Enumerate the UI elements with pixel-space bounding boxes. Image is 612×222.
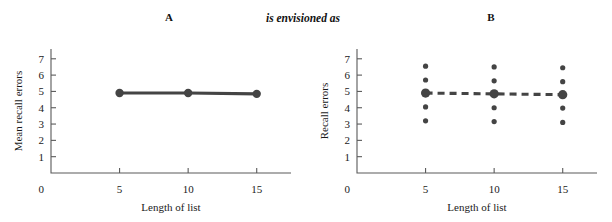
panel-a-ytick-label-7: 7 [39, 53, 45, 65]
panel-a-ytick-label-4: 4 [39, 102, 45, 114]
panel-a-ytick-label-6: 6 [39, 69, 45, 81]
panel-a-origin-label: 0 [39, 183, 45, 195]
panel-b-observation-point [423, 104, 428, 109]
panel-b-mean-point [490, 89, 499, 98]
panel-b-ytick-label-4: 4 [345, 102, 351, 114]
panel-b-observation-point [492, 119, 497, 124]
panel-b-yaxis-title: Recall errors [318, 83, 330, 140]
panel-b-xtick-label-15: 15 [557, 183, 569, 195]
panel-b-ytick-label-1: 1 [345, 151, 351, 163]
panel-b-plot-area: 1234567051015Length of listRecall errors [306, 0, 612, 222]
panel-a-chart: 1234567051015Length of listMean recall e… [0, 0, 306, 222]
panel-a-data-point [115, 89, 123, 97]
panel-b-origin-label: 0 [345, 183, 351, 195]
panel-b-observation-point [492, 64, 497, 69]
panel-b-observation-point [560, 120, 565, 125]
panel-b-observation-point [492, 105, 497, 110]
panel-b-observation-point [492, 78, 497, 83]
panel-a-ytick-label-1: 1 [39, 151, 45, 163]
panel-b-ytick-label-5: 5 [345, 85, 351, 97]
panel-b-ytick-label-3: 3 [345, 118, 351, 130]
panel-b-ytick-label-6: 6 [345, 69, 351, 81]
panel-a-xtick-label-15: 15 [251, 183, 263, 195]
figure-container: A is envisioned as B 1234567051015Length… [0, 0, 612, 222]
panel-b-observation-point [560, 79, 565, 84]
panel-b-ytick-label-2: 2 [345, 134, 351, 146]
panel-b-observation-point [560, 65, 565, 70]
panel-a-xtick-label-5: 5 [117, 183, 123, 195]
panel-b-xtick-label-5: 5 [423, 183, 429, 195]
panel-a-data-point [184, 89, 192, 97]
panel-b-observation-point [560, 105, 565, 110]
panel-a-axis-lines [51, 49, 291, 173]
panel-a-ytick-label-5: 5 [39, 85, 45, 97]
panel-b-observation-point [423, 118, 428, 123]
panel-b-xaxis-title: Length of list [447, 201, 506, 213]
panel-b-ytick-label-7: 7 [345, 53, 351, 65]
panel-a-ytick-label-3: 3 [39, 118, 45, 130]
panel-b-xtick-label-10: 10 [489, 183, 501, 195]
panel-b-observation-point [423, 64, 428, 69]
panel-a-xtick-label-10: 10 [183, 183, 195, 195]
panel-b-mean-point [558, 90, 567, 99]
panel-b-observation-point [423, 77, 428, 82]
panel-a-data-point [253, 90, 261, 98]
panel-a-yaxis-title: Mean recall errors [12, 71, 24, 152]
panel-a-ytick-label-2: 2 [39, 134, 45, 146]
panel-a-xaxis-title: Length of list [141, 201, 200, 213]
panel-b-mean-point [421, 88, 430, 97]
panel-a-plot-area: 1234567051015Length of listMean recall e… [0, 0, 306, 222]
panel-b-chart: 1234567051015Length of listRecall errors [306, 0, 612, 222]
